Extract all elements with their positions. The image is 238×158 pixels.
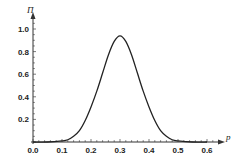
x-tick-label: 0.3 xyxy=(114,146,126,155)
y-tick-label: 0.6 xyxy=(18,70,30,79)
y-tick-label: 0.8 xyxy=(18,48,30,57)
x-tick-label: 0.6 xyxy=(201,146,213,155)
y-tick-label: 1.0 xyxy=(18,25,30,34)
data-curve xyxy=(33,36,207,142)
x-axis: p 0.00.10.20.30.40.50.6 xyxy=(27,132,231,155)
x-axis-arrow-icon xyxy=(218,140,225,145)
y-tick-label: 0.2 xyxy=(18,115,30,124)
chart: Π 0.20.40.60.81.0 p 0.00.10.20.30.40.50.… xyxy=(0,0,238,158)
x-axis-label: p xyxy=(225,132,231,142)
x-tick-label: 0.5 xyxy=(172,146,184,155)
x-tick-label: 0.2 xyxy=(85,146,97,155)
x-tick-label: 0.1 xyxy=(56,146,68,155)
y-axis-label: Π xyxy=(26,5,34,15)
x-tick-label: 0.4 xyxy=(143,146,155,155)
x-tick-label: 0.0 xyxy=(27,146,39,155)
y-tick-label: 0.4 xyxy=(18,93,30,102)
y-axis: Π 0.20.40.60.81.0 xyxy=(18,5,36,144)
